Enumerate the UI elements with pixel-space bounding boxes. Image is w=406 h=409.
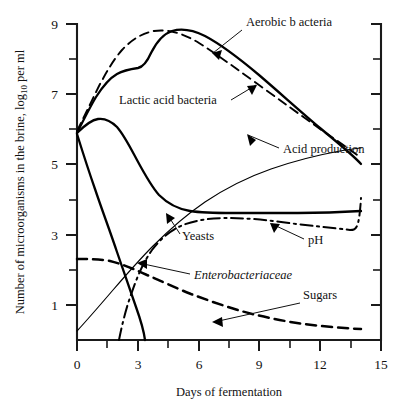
x-tick-label-15: 15: [374, 357, 388, 372]
x-axis-ticks: [77, 340, 381, 351]
label-ph: pH: [308, 233, 323, 247]
x-tick-label-0: 0: [74, 357, 81, 372]
y-tick-label-9: 9: [51, 17, 58, 32]
y-axis-tick-labels: 9 7 5 3 1: [51, 17, 58, 313]
label-lactic-acid-bacteria: Lactic acid bacteria: [119, 93, 217, 107]
leader-acid-production: [247, 134, 279, 148]
leader-aerobic-bacteria: [212, 30, 242, 60]
fermentation-chart: 9 7 5 3 1 0 3 6 9 12 15 Days of fermenta…: [0, 0, 406, 409]
y-tick-label-3: 3: [51, 228, 58, 243]
y-axis-title: Number of microorganisms in the brine, l…: [13, 49, 29, 314]
figure-container: 9 7 5 3 1 0 3 6 9 12 15 Days of fermenta…: [0, 0, 406, 409]
x-tick-label-9: 9: [256, 357, 263, 372]
x-axis-tick-labels: 0 3 6 9 12 15: [74, 357, 388, 372]
x-tick-label-12: 12: [313, 357, 327, 372]
x-tick-label-3: 3: [135, 357, 142, 372]
x-axis-title: Days of fermentation: [176, 385, 283, 399]
label-acid-production: Acid production: [283, 142, 365, 156]
y-axis-title-tail: per ml: [13, 49, 27, 85]
y-axis-title-main: Number of microorganisms in the brine, l…: [13, 93, 27, 314]
label-yeasts: Yeasts: [182, 229, 214, 243]
series-ph: [77, 119, 361, 213]
label-sugars: Sugars: [303, 288, 337, 302]
leader-sugars: [212, 303, 300, 327]
leader-lactic-acid-bacteria: [231, 85, 257, 100]
y-tick-label-1: 1: [51, 298, 58, 313]
x-tick-label-6: 6: [196, 357, 203, 372]
leader-ph: [270, 223, 304, 239]
y-tick-label-7: 7: [51, 87, 58, 102]
y-axis-ticks-right: [371, 24, 381, 305]
series-enterobacteriaceae: [77, 134, 145, 340]
y-tick-label-5: 5: [51, 157, 58, 172]
label-enterobacteriaceae: Enterobacteriaceae: [193, 268, 293, 282]
leader-enterobacteriaceae: [137, 259, 190, 274]
label-aerobic-bacteria: Aerobic b acteria: [246, 15, 333, 29]
y-axis-ticks: [66, 24, 77, 305]
